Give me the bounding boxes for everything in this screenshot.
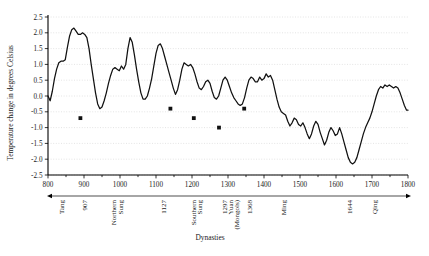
x-tick-label: 1200 <box>185 181 200 189</box>
x-tick-label: 1400 <box>257 181 272 189</box>
y-tick-label: 1.0 <box>34 61 43 69</box>
y-tick-label: 1.5 <box>34 45 43 53</box>
y-axis-title: Temperature change in degrees Celsius <box>6 45 15 161</box>
dynasty-label: 907 <box>81 200 89 211</box>
data-marker <box>79 116 83 120</box>
x-tick-label: 1600 <box>329 181 344 189</box>
data-marker <box>242 107 246 111</box>
x-tick-label: 1500 <box>293 181 308 189</box>
dynasty-label: 1368 <box>246 200 254 215</box>
x-axis-title: Dynasties <box>195 233 224 242</box>
x-tick-label: 1800 <box>401 181 416 189</box>
x-tick-label: 1100 <box>149 181 164 189</box>
data-marker <box>169 107 173 111</box>
data-marker <box>192 116 196 120</box>
x-tick-label: 1300 <box>221 181 236 189</box>
dynasty-label: Qing <box>371 200 379 215</box>
dynasty-label: 1127 <box>160 200 168 214</box>
y-tick-label: -2.0 <box>31 156 43 164</box>
x-tick-label: 1700 <box>365 181 380 189</box>
y-tick-label: -0.5 <box>31 108 43 116</box>
dynasty-label: Sung <box>117 200 125 215</box>
dynasty-label: Ming <box>280 200 288 216</box>
y-tick-label: -1.5 <box>31 140 43 148</box>
x-tick-label: 800 <box>43 181 54 189</box>
data-marker <box>217 126 221 130</box>
y-tick-label: 2.0 <box>34 29 43 37</box>
y-tick-label: 0.5 <box>34 77 43 85</box>
chart-background <box>0 0 429 256</box>
dynasty-label: Tang <box>58 200 66 214</box>
y-tick-label: 0.0 <box>34 93 43 101</box>
dynasty-label: (Mongols) <box>233 199 241 229</box>
chart-canvas: 2.52.01.51.00.50.0-0.5-1.0-1.5-2.0-2.5 8… <box>0 0 429 256</box>
temperature-chart: 2.52.01.51.00.50.0-0.5-1.0-1.5-2.0-2.5 8… <box>0 0 429 256</box>
x-tick-label: 900 <box>79 181 90 189</box>
dynasty-label: 1644 <box>346 200 354 215</box>
y-tick-label: -1.0 <box>31 124 43 132</box>
dynasty-label: Sung <box>196 200 204 215</box>
x-tick-label: 1000 <box>113 181 128 189</box>
y-tick-label: 2.5 <box>34 14 43 22</box>
y-tick-label: -2.5 <box>31 172 43 180</box>
